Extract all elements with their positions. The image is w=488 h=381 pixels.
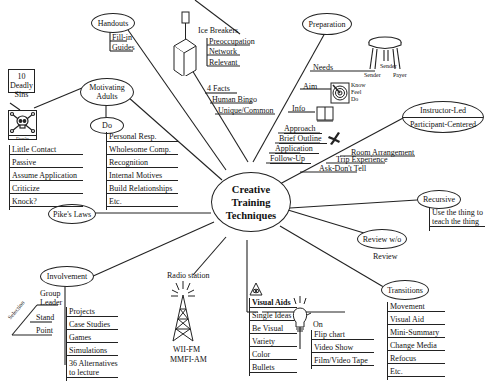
transitions-item: Refocus xyxy=(388,354,445,364)
recursive-line: teach the thing xyxy=(430,217,485,227)
instructor-item: Trip Experience xyxy=(336,155,387,164)
radio-title: Radio station xyxy=(167,271,209,280)
four-facts-title: 4 Facts xyxy=(207,84,230,93)
transitions-item: Visual Aid xyxy=(388,315,445,325)
needs-label: Needs xyxy=(313,63,333,72)
media-item: Film/Video Tape xyxy=(312,356,374,366)
aim-item: Feel xyxy=(351,89,361,96)
media-item: Video Show xyxy=(312,343,374,353)
participant-centered-label: Participant-Centered xyxy=(403,117,483,129)
recursive-detail: Use the thing to teach the thing xyxy=(429,208,485,231)
visual-aids-item: Variety xyxy=(250,337,297,347)
aim-item: Know xyxy=(351,82,366,89)
eye-pyramid-icon xyxy=(249,282,263,296)
stool-label-payer: Payer xyxy=(393,71,407,80)
media-item: Flip chart xyxy=(312,330,374,340)
visual-media-list: Flip chart Video Show Film/Video Tape xyxy=(311,330,374,369)
book-icon xyxy=(316,106,334,122)
do-item: Build Relationships xyxy=(107,184,178,194)
deadly-sins-line1: 10 Deadly xyxy=(9,72,34,90)
transitions-item: Etc. xyxy=(388,367,445,377)
leader-label: Leader xyxy=(40,298,62,307)
skull-box: Don'ts xyxy=(8,110,37,140)
point-label: Point xyxy=(36,326,53,335)
involvement-item: Simulations xyxy=(67,346,118,356)
on-label: On xyxy=(313,320,323,329)
motivating-line2: Adults xyxy=(96,92,117,101)
prep-step: Application xyxy=(275,144,319,154)
handouts-item: Guides xyxy=(112,43,135,52)
radio-tower-icon xyxy=(168,281,198,343)
motivating-adults-node[interactable]: Motivating Adults xyxy=(80,78,134,106)
visual-aids-item: Bullets xyxy=(250,363,297,373)
airplane-icon xyxy=(327,131,341,146)
involvement-node[interactable]: Involvement xyxy=(40,266,94,287)
lightbulb-icon xyxy=(290,296,312,334)
ice-breakers-item: Relevant xyxy=(209,58,237,67)
instructor-item: Ask-Don't Tell xyxy=(319,164,366,173)
do-item: Recognition xyxy=(107,158,178,168)
transitions-list: Movement Visual Aid Mini-Summary Change … xyxy=(387,302,445,380)
preparation-node[interactable]: Preparation xyxy=(302,13,352,35)
central-topic-line2: Training xyxy=(232,196,271,209)
transitions-node[interactable]: Transitions xyxy=(381,280,429,300)
handouts-label: Handouts xyxy=(98,19,129,28)
do-item: Etc. xyxy=(107,197,178,207)
deadly-sins-line2: Sins xyxy=(9,90,34,99)
ice-breakers-item: Network xyxy=(209,47,237,56)
transitions-item: Movement xyxy=(388,302,445,312)
involvement-item: Projects xyxy=(67,307,118,317)
prep-step: Follow-Up xyxy=(270,154,311,164)
review-label: Review w/o xyxy=(363,235,401,244)
ice-cube-icon xyxy=(168,10,198,76)
involvement-item: Case Studies xyxy=(67,320,118,330)
central-topic-line3: Techniques xyxy=(226,209,276,222)
skull-crossbones-icon xyxy=(9,111,36,133)
involvement-list: Projects Case Studies Games Simulations … xyxy=(66,307,118,381)
handouts-item: Fill-in xyxy=(112,33,132,42)
group-label: Group xyxy=(40,289,60,298)
review-node[interactable]: Review w/o xyxy=(357,229,407,249)
recursive-line: Use the thing to xyxy=(430,208,485,217)
donts-item: Assume Application xyxy=(10,171,83,181)
central-topic[interactable]: Creative Training Techniques xyxy=(211,172,291,232)
involvement-label: Involvement xyxy=(47,272,87,281)
radio-call1: WII-FM xyxy=(173,345,200,354)
transitions-item: Change Media xyxy=(388,341,445,351)
radio-call2: MMFI-AM xyxy=(170,355,207,364)
stool-label-sender: Sender xyxy=(364,71,381,80)
preparation-label: Preparation xyxy=(309,20,346,29)
deadly-sins-box[interactable]: 10 Deadly Sins xyxy=(8,69,35,93)
ice-breakers-title: Ice Breakers xyxy=(198,26,238,35)
transitions-item: Mini-Summary xyxy=(388,328,445,338)
four-facts-item: Human Bingo xyxy=(212,95,257,104)
aim-label: Aim xyxy=(303,82,317,91)
do-item: Personal Resp. xyxy=(107,132,178,142)
instructor-led-label: Instructor-Led xyxy=(420,106,466,117)
do-list: Personal Resp. Wholesome Comp. Recogniti… xyxy=(106,132,178,210)
instructor-led-node[interactable]: Instructor-Led Participant-Centered xyxy=(402,101,484,133)
visual-aids-item: Color xyxy=(250,350,297,360)
central-topic-line1: Creative xyxy=(232,183,270,196)
donts-item: Passive xyxy=(10,158,83,168)
do-label: Do xyxy=(102,121,112,130)
do-item: Wholesome Comp. xyxy=(107,145,178,155)
donts-item: Criticize xyxy=(10,184,83,194)
donts-item: Little Contact xyxy=(10,145,83,155)
ice-breakers-item: Preoccupation xyxy=(209,37,255,46)
involvement-item: to lecture xyxy=(67,368,118,378)
do-item: Internal Motives xyxy=(107,171,178,181)
info-label: Info xyxy=(292,104,305,113)
recursive-label: Recursive xyxy=(423,195,455,204)
involvement-item: 36 Alternatives xyxy=(67,359,118,368)
handouts-node[interactable]: Handouts xyxy=(91,13,135,33)
prep-step: Brief Outline xyxy=(279,134,327,144)
transitions-label: Transitions xyxy=(387,286,423,295)
donts-item: Knock? xyxy=(10,197,83,207)
motivating-line1: Motivating xyxy=(89,83,125,92)
target-icon xyxy=(330,82,350,104)
stool-label-sender: Sender xyxy=(380,62,397,71)
recursive-node[interactable]: Recursive xyxy=(417,190,461,209)
donts-list: Little Contact Passive Assume Applicatio… xyxy=(9,145,83,210)
prep-step: Approach xyxy=(284,124,322,134)
